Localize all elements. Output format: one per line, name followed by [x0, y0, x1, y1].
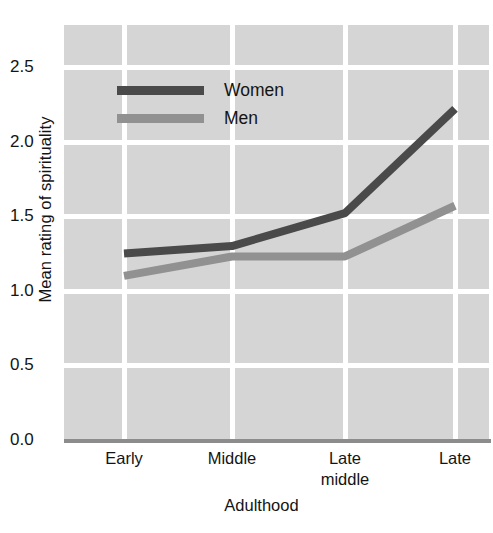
- horizontal-gridline: [64, 65, 489, 70]
- legend-swatch-men: [117, 114, 204, 123]
- x-tick-line: middle: [270, 469, 420, 490]
- legend: WomenMen: [117, 76, 284, 132]
- x-tick-label: Late: [380, 448, 493, 469]
- horizontal-gridline: [64, 289, 489, 294]
- legend-item-men: Men: [117, 104, 284, 132]
- y-tick-label: 1.0: [0, 281, 58, 301]
- x-axis-title: Adulthood: [0, 496, 493, 515]
- chart-figure: Mean rating of spirituality 2.52.01.51.0…: [0, 0, 493, 533]
- horizontal-gridline: [64, 140, 489, 145]
- horizontal-gridline: [64, 363, 489, 368]
- legend-label: Women: [224, 80, 284, 101]
- y-tick-label: 2.5: [0, 57, 58, 77]
- y-tick-label: 0.5: [0, 355, 58, 375]
- legend-swatch-women: [117, 86, 204, 95]
- x-tick-line: Late: [380, 448, 493, 469]
- horizontal-gridline: [64, 214, 489, 219]
- legend-label: Men: [224, 108, 258, 129]
- y-tick-label: 0.0: [0, 430, 58, 450]
- x-axis-line: [64, 439, 491, 443]
- legend-item-women: Women: [117, 76, 284, 104]
- vertical-gridline: [343, 25, 348, 441]
- y-tick-label: 2.0: [0, 132, 58, 152]
- vertical-gridline: [453, 25, 458, 441]
- y-tick-label: 1.5: [0, 206, 58, 226]
